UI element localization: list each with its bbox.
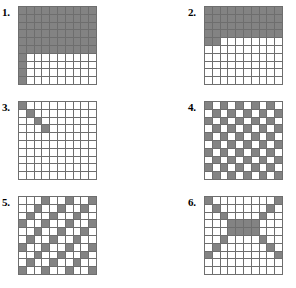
grid-cell-empty[interactable] <box>267 220 275 228</box>
grid-cell-empty[interactable] <box>50 118 58 126</box>
grid-cell-empty[interactable] <box>221 172 229 180</box>
grid-cell-filled[interactable] <box>221 30 229 38</box>
grid-cell-empty[interactable] <box>58 141 66 149</box>
grid-cell-filled[interactable] <box>252 220 260 228</box>
grid-cell-empty[interactable] <box>221 125 229 133</box>
grid-cell-empty[interactable] <box>213 197 221 205</box>
grid-cell-empty[interactable] <box>81 244 89 252</box>
grid-cell-filled[interactable] <box>213 172 221 180</box>
grid-cell-filled[interactable] <box>27 15 35 23</box>
grid-cell-filled[interactable] <box>81 46 89 54</box>
grid-cell-empty[interactable] <box>275 38 283 46</box>
grid-cell-filled[interactable] <box>244 141 252 149</box>
grid-cell-filled[interactable] <box>221 118 229 126</box>
grid-cell-empty[interactable] <box>58 259 66 267</box>
grid-cell-empty[interactable] <box>27 125 35 133</box>
grid-cell-filled[interactable] <box>19 69 27 77</box>
grid-cell-empty[interactable] <box>50 102 58 110</box>
grid-cell-filled[interactable] <box>42 23 50 31</box>
grid-cell-filled[interactable] <box>27 259 35 267</box>
grid-cell-empty[interactable] <box>213 149 221 157</box>
grid-cell-filled[interactable] <box>66 15 74 23</box>
puzzle-1-grid[interactable] <box>18 6 97 85</box>
grid-cell-empty[interactable] <box>252 267 260 275</box>
grid-cell-filled[interactable] <box>74 259 82 267</box>
grid-cell-empty[interactable] <box>252 141 260 149</box>
grid-cell-empty[interactable] <box>236 62 244 70</box>
grid-cell-filled[interactable] <box>58 23 66 31</box>
grid-cell-empty[interactable] <box>260 244 268 252</box>
grid-cell-empty[interactable] <box>221 197 229 205</box>
grid-cell-empty[interactable] <box>50 205 58 213</box>
grid-cell-filled[interactable] <box>42 46 50 54</box>
grid-cell-filled[interactable] <box>244 110 252 118</box>
grid-cell-empty[interactable] <box>66 236 74 244</box>
grid-cell-filled[interactable] <box>205 30 213 38</box>
grid-cell-empty[interactable] <box>19 118 27 126</box>
grid-cell-empty[interactable] <box>236 267 244 275</box>
grid-cell-filled[interactable] <box>42 30 50 38</box>
grid-cell-filled[interactable] <box>35 15 43 23</box>
grid-cell-filled[interactable] <box>252 149 260 157</box>
grid-cell-filled[interactable] <box>58 228 66 236</box>
grid-cell-empty[interactable] <box>89 157 97 165</box>
grid-cell-empty[interactable] <box>260 102 268 110</box>
grid-cell-empty[interactable] <box>267 110 275 118</box>
grid-cell-filled[interactable] <box>35 228 43 236</box>
grid-cell-empty[interactable] <box>213 133 221 141</box>
grid-cell-filled[interactable] <box>236 118 244 126</box>
grid-cell-empty[interactable] <box>81 118 89 126</box>
grid-cell-filled[interactable] <box>81 38 89 46</box>
grid-cell-empty[interactable] <box>221 110 229 118</box>
grid-cell-empty[interactable] <box>221 62 229 70</box>
grid-cell-empty[interactable] <box>236 197 244 205</box>
grid-cell-empty[interactable] <box>42 213 50 221</box>
grid-cell-empty[interactable] <box>236 213 244 221</box>
grid-cell-filled[interactable] <box>74 38 82 46</box>
grid-cell-empty[interactable] <box>66 118 74 126</box>
grid-cell-filled[interactable] <box>19 244 27 252</box>
grid-cell-filled[interactable] <box>27 23 35 31</box>
grid-cell-empty[interactable] <box>27 149 35 157</box>
grid-cell-filled[interactable] <box>213 244 221 252</box>
grid-cell-filled[interactable] <box>267 164 275 172</box>
grid-cell-empty[interactable] <box>19 172 27 180</box>
grid-cell-empty[interactable] <box>66 54 74 62</box>
grid-cell-filled[interactable] <box>50 38 58 46</box>
grid-cell-empty[interactable] <box>81 77 89 85</box>
grid-cell-empty[interactable] <box>19 213 27 221</box>
grid-cell-filled[interactable] <box>66 30 74 38</box>
grid-cell-filled[interactable] <box>267 15 275 23</box>
grid-cell-empty[interactable] <box>252 172 260 180</box>
grid-cell-empty[interactable] <box>66 259 74 267</box>
grid-cell-filled[interactable] <box>19 102 27 110</box>
grid-cell-filled[interactable] <box>58 30 66 38</box>
grid-cell-filled[interactable] <box>205 118 213 126</box>
grid-cell-empty[interactable] <box>244 118 252 126</box>
grid-cell-empty[interactable] <box>221 69 229 77</box>
grid-cell-filled[interactable] <box>50 46 58 54</box>
grid-cell-empty[interactable] <box>213 102 221 110</box>
grid-cell-filled[interactable] <box>252 23 260 31</box>
grid-cell-empty[interactable] <box>213 259 221 267</box>
grid-cell-empty[interactable] <box>228 236 236 244</box>
grid-cell-empty[interactable] <box>74 157 82 165</box>
grid-cell-filled[interactable] <box>267 133 275 141</box>
grid-cell-filled[interactable] <box>260 172 268 180</box>
grid-cell-empty[interactable] <box>244 62 252 70</box>
grid-cell-filled[interactable] <box>205 38 213 46</box>
grid-cell-filled[interactable] <box>213 125 221 133</box>
grid-cell-filled[interactable] <box>81 205 89 213</box>
grid-cell-empty[interactable] <box>267 69 275 77</box>
grid-cell-empty[interactable] <box>35 141 43 149</box>
grid-cell-empty[interactable] <box>19 110 27 118</box>
grid-cell-empty[interactable] <box>236 172 244 180</box>
grid-cell-empty[interactable] <box>213 213 221 221</box>
grid-cell-filled[interactable] <box>58 205 66 213</box>
grid-cell-filled[interactable] <box>50 30 58 38</box>
grid-cell-empty[interactable] <box>35 125 43 133</box>
grid-cell-empty[interactable] <box>275 118 283 126</box>
grid-cell-empty[interactable] <box>228 197 236 205</box>
grid-cell-empty[interactable] <box>89 133 97 141</box>
grid-cell-empty[interactable] <box>81 157 89 165</box>
